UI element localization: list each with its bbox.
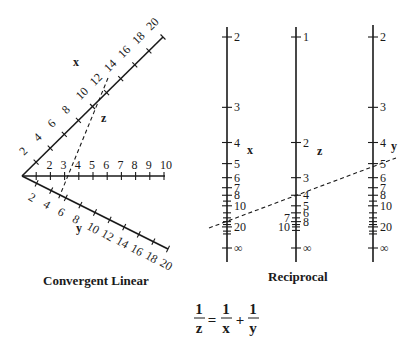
convergent-z-axis-label: z [101, 111, 107, 125]
tick-label: 6 [103, 158, 109, 172]
tick-label: 16 [115, 43, 133, 61]
tick-label: 20 [158, 255, 175, 273]
tick-label: 18 [143, 248, 160, 266]
tick-label: 9 [146, 158, 152, 172]
tick-label: 8 [132, 158, 138, 172]
tick-label: 4 [41, 197, 53, 212]
equation-lhs-numerator: 1 [195, 301, 203, 317]
tick-label: 12 [87, 70, 105, 88]
tick-label: 10 [380, 199, 392, 213]
reciprocal-z-ticks: 1234568∞710 [278, 30, 312, 255]
tick-label: 2 [380, 30, 386, 44]
tick-label: 3 [380, 100, 386, 114]
equation: 1 z = 1 x + 1 y [194, 301, 259, 336]
tick-label: 10 [278, 220, 290, 234]
reciprocal-caption: Reciprocal [268, 269, 328, 284]
tick-label: 12 [99, 226, 116, 244]
tick-label: 10 [73, 84, 91, 102]
convergent-y-ticks: 2468101214161820 [26, 180, 175, 273]
tick-label: 14 [114, 234, 131, 252]
tick-label: ∞ [380, 241, 389, 255]
tick-label: 10 [160, 158, 172, 172]
tick-label: 8 [303, 215, 309, 229]
reciprocal-y-axis-label: y [391, 139, 397, 153]
reciprocal-y-ticks: 23456781020∞ [368, 30, 392, 255]
tick-label: 1 [303, 30, 309, 44]
tick-label: 4 [30, 130, 44, 144]
tick-label: 18 [129, 29, 147, 47]
tick-label: 7 [117, 158, 123, 172]
equation-lhs-denominator: z [196, 320, 203, 336]
tick-label: ∞ [234, 241, 243, 255]
tick-label: 20 [380, 220, 392, 234]
tick-label: 3 [61, 158, 67, 172]
tick-label: 10 [234, 199, 246, 213]
tick-label: 10 [85, 219, 102, 237]
tick-label: ∞ [303, 241, 312, 255]
equation-plus: + [236, 312, 245, 328]
tick-label: 16 [128, 241, 145, 259]
nomogram-figure: 2468101214161820 x 2345678910 z 24681012… [0, 0, 417, 351]
reciprocal-z-axis-label: z [317, 144, 323, 158]
tick-label: 20 [143, 15, 161, 33]
equation-equals: = [208, 312, 217, 328]
tick-label: 2 [46, 158, 52, 172]
tick-label: 5 [89, 158, 95, 172]
tick-label: 5 [234, 157, 240, 171]
equation-term1-denominator: x [222, 320, 230, 336]
convergent-linear-panel: 2468101214161820 x 2345678910 z 24681012… [16, 15, 175, 288]
tick-label: 6 [45, 116, 59, 130]
equation-term2-denominator: y [249, 320, 257, 336]
convergent-x-ticks: 2468101214161820 [16, 15, 165, 165]
tick-label: 6 [55, 204, 67, 219]
tick-label: 2 [16, 144, 30, 158]
tick-label: 3 [303, 171, 309, 185]
convergent-caption: Convergent Linear [43, 273, 149, 288]
tick-label: 20 [234, 220, 246, 234]
equation-term2-numerator: 1 [249, 301, 257, 317]
tick-label: 14 [101, 56, 119, 74]
equation-term1-numerator: 1 [222, 301, 230, 317]
tick-label: 2 [234, 30, 240, 44]
tick-label: 4 [380, 136, 386, 150]
tick-label: 8 [59, 102, 73, 116]
convergent-y-axis-label: y [76, 221, 82, 235]
reciprocal-panel: 23456781020∞ x 1234568∞710 z 23456781020… [209, 25, 397, 284]
tick-label: 3 [234, 100, 240, 114]
convergent-x-axis-label: x [73, 55, 79, 69]
tick-label: 4 [234, 136, 240, 150]
reciprocal-x-axis-label: x [247, 143, 253, 157]
tick-label: 2 [303, 136, 309, 150]
tick-label: 2 [26, 190, 38, 205]
tick-label: 4 [75, 158, 81, 172]
